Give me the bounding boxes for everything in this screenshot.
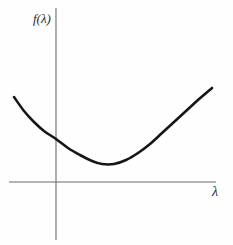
- y-axis-label: f(λ): [33, 12, 51, 25]
- x-axis-label: λ: [212, 185, 218, 199]
- plot-canvas: [0, 0, 233, 245]
- function-plot-figure: f(λ) λ: [0, 0, 233, 245]
- function-curve: [14, 88, 212, 164]
